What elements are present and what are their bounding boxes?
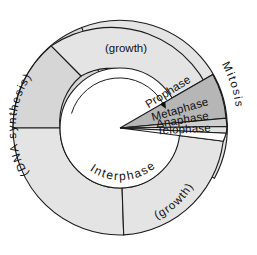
cell-cycle-diagram: (DNA synthesis) (growth) (growth) Interp…	[0, 0, 257, 255]
cell-cycle-svg: (DNA synthesis) (growth) (growth) Interp…	[0, 0, 257, 255]
label-growth-top: (growth)	[105, 42, 147, 54]
